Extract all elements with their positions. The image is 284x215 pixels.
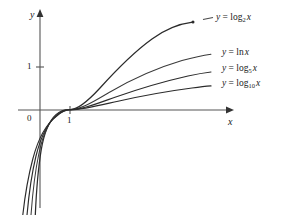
x-axis-label: x bbox=[228, 117, 232, 127]
plot-canvas bbox=[0, 0, 284, 215]
curve-label-log2-base: 2 bbox=[242, 16, 245, 23]
curve-label-ln-fn: ln bbox=[236, 47, 243, 57]
curve-label-log10-op: = bbox=[229, 78, 234, 88]
curve-log10 bbox=[23, 86, 211, 215]
curve-log5 bbox=[27, 72, 211, 215]
y-tick-label-one: 1 bbox=[27, 62, 32, 71]
origin-label: 0 bbox=[27, 114, 32, 123]
curve-label-log2-arg: x bbox=[247, 12, 251, 22]
curve-label-log2: y = log2x bbox=[216, 13, 251, 23]
curve-label-log2-lhs: y bbox=[216, 12, 220, 22]
curve-log2 bbox=[35, 22, 192, 215]
curve-label-log5: y = log5x bbox=[222, 64, 257, 74]
y-axis-label: y bbox=[30, 10, 34, 20]
y-axis-arrowhead bbox=[37, 9, 44, 17]
curve-label-log5-op: = bbox=[229, 63, 234, 73]
curve-ln bbox=[31, 54, 211, 215]
logarithm-graph-figure: y x 1 1 0 y = log2x y = lnx y = log5x y … bbox=[0, 0, 284, 215]
curve-label-log10-arg: x bbox=[256, 78, 260, 88]
curve-label-log5-base: 5 bbox=[248, 67, 251, 74]
curve-label-log10-lhs: y bbox=[222, 78, 226, 88]
curve-label-ln-arg: x bbox=[245, 47, 249, 57]
curve-label-log2-op: = bbox=[223, 12, 228, 22]
curve-log2-endpoint-dot bbox=[192, 21, 195, 24]
curve-label-log5-lhs: y bbox=[222, 63, 226, 73]
curve-label-log5-fn: log bbox=[236, 63, 248, 73]
curve-label-ln-lhs: y bbox=[222, 47, 226, 57]
curve-label-log2-fn: log bbox=[230, 12, 242, 22]
curve-label-log10: y = log10x bbox=[222, 79, 260, 89]
curve-label-ln: y = lnx bbox=[222, 48, 249, 58]
x-tick-label-one: 1 bbox=[67, 116, 72, 125]
x-axis-arrowhead bbox=[226, 107, 234, 114]
annotation-group bbox=[192, 18, 214, 24]
curves-group bbox=[23, 22, 211, 215]
curve-label-ln-op: = bbox=[229, 47, 234, 57]
curve-label-log5-arg: x bbox=[253, 63, 257, 73]
curve-label-log10-fn: log bbox=[236, 78, 248, 88]
axes-group bbox=[18, 9, 234, 208]
log2-label-leader-dash bbox=[203, 18, 213, 20]
curve-label-log10-base: 10 bbox=[248, 82, 255, 89]
